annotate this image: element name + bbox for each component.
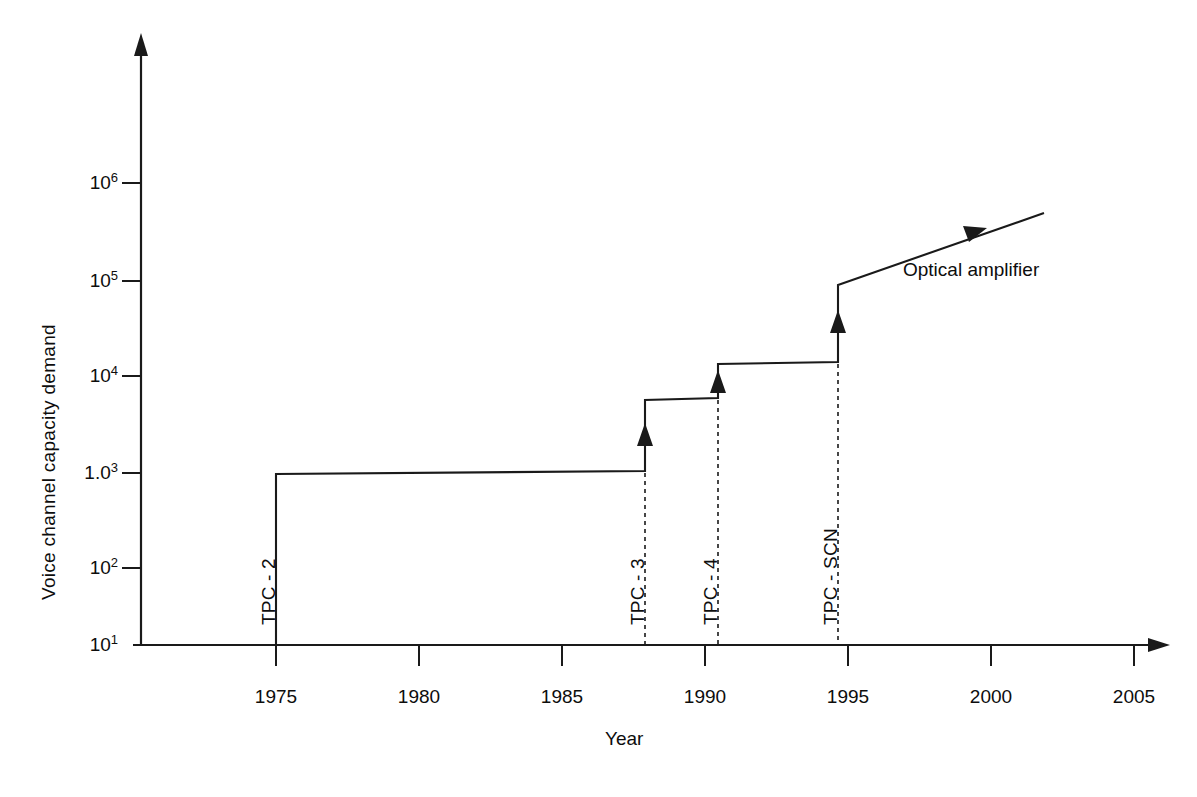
y-tick-label-1e2: 102 [58,557,118,579]
y-tick-label-1e1: 101 [58,634,118,656]
x-axis-arrow-icon [1148,638,1170,652]
marker-label-tpc-3: TPC - 3 [627,558,649,625]
y-axis-title: Voice channel capacity demand [38,324,60,600]
riser-arrow-tpc-scn-icon [830,310,846,333]
chart-figure: 106 105 104 1.03 102 101 1975 1980 1985 … [0,0,1197,797]
chart-canvas [0,0,1197,797]
marker-label-tpc-2: TPC - 2 [258,558,280,625]
x-tick-label-2005: 2005 [1094,686,1174,708]
y-axis [134,33,148,645]
y-axis-ticks [122,183,141,568]
y-tick-label-1e5: 105 [58,270,118,292]
riser-arrow-tpc-3-icon [637,423,653,446]
x-axis-ticks [276,645,1134,666]
x-tick-label-1985: 1985 [522,686,602,708]
x-tick-label-1990: 1990 [665,686,745,708]
x-axis-title: Year [605,728,643,750]
x-tick-label-2000: 2000 [951,686,1031,708]
x-axis [133,638,1170,652]
y-axis-arrow-icon [134,33,148,56]
marker-label-tpc-4: TPC - 4 [700,558,722,625]
marker-label-tpc-scn: TPC - SCN [820,528,842,625]
y-tick-label-1e3: 1.03 [50,462,118,484]
marker-drop-lines [276,364,838,645]
y-tick-label-1e4: 104 [58,365,118,387]
y-tick-label-1e6: 106 [58,172,118,194]
x-tick-label-1995: 1995 [808,686,888,708]
riser-arrow-tpc-4-icon [710,370,726,393]
x-tick-label-1980: 1980 [379,686,459,708]
riser-arrowheads [637,310,846,446]
x-tick-label-1975: 1975 [236,686,316,708]
annotation-optical-amplifier: Optical amplifier [903,259,1039,281]
